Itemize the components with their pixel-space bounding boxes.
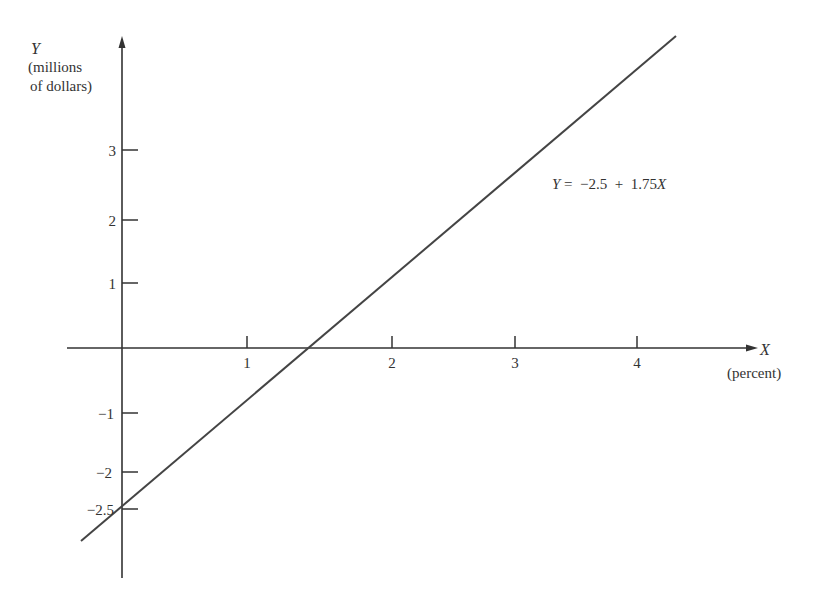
chart-canvas: 1 2 3 4 3 2 1 −1 −2 −2.5 Y (millions of … xyxy=(0,0,827,604)
x-axis-arrow-icon xyxy=(746,345,758,352)
y-axis-unit-line2: of dollars) xyxy=(30,78,92,95)
y-ticks xyxy=(122,150,138,509)
x-tick-label-3: 3 xyxy=(511,355,519,371)
equation-label: Y = −2.5 + 1.75X xyxy=(552,176,667,192)
y-tick-label-3: 3 xyxy=(109,143,117,159)
equation-rhs: = −2.5 + 1.75 xyxy=(560,176,657,192)
y-tick-label-1: 1 xyxy=(109,276,117,292)
y-axis-arrow-icon xyxy=(119,36,126,48)
equation-x: X xyxy=(656,176,667,192)
x-tick-label-4: 4 xyxy=(633,355,641,371)
y-axis-name: Y xyxy=(31,40,42,57)
y-tick-label-neg1: −1 xyxy=(98,406,114,422)
y-tick-label-neg2-5: −2.5 xyxy=(87,502,114,518)
regression-line xyxy=(81,36,676,541)
y-tick-label-2: 2 xyxy=(109,213,117,229)
x-axis-unit: (percent) xyxy=(727,365,781,382)
x-axis-name: X xyxy=(759,341,771,358)
x-tick-label-2: 2 xyxy=(388,355,396,371)
x-ticks xyxy=(247,336,637,348)
y-tick-label-neg2: −2 xyxy=(96,465,112,481)
x-tick-label-1: 1 xyxy=(243,355,251,371)
y-axis-unit-line1: (millions xyxy=(28,59,82,76)
